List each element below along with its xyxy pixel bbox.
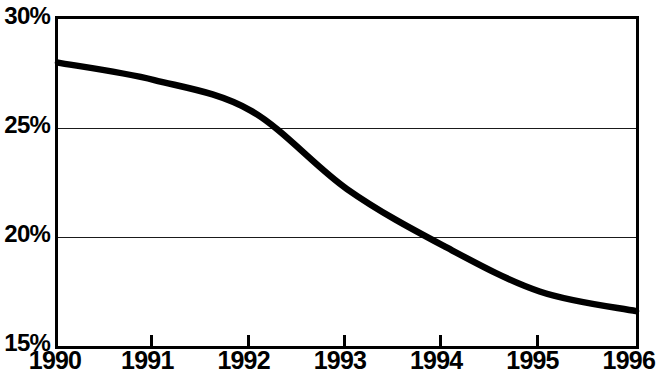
x-axis-label-1995: 1995 <box>478 348 588 373</box>
x-axis-label-1993: 1993 <box>285 348 395 373</box>
x-axis-label-1991: 1991 <box>92 348 202 373</box>
x-axis-label-1992: 1992 <box>189 348 299 373</box>
y-axis-tick-text: 30% <box>4 4 50 28</box>
y-axis-tick-label-30: 30% <box>0 4 50 28</box>
plot-inner <box>58 19 636 346</box>
x-axis-label-1996: 1996 <box>574 348 659 373</box>
series-path <box>58 63 636 312</box>
data-series-line <box>58 19 636 346</box>
x-axis-label-1994: 1994 <box>381 348 491 373</box>
line-chart: 30% 25% 20% 15% 1990 1991 1992 1993 <box>0 0 659 376</box>
plot-area <box>55 16 639 349</box>
y-axis-tick-text: 20% <box>4 222 50 246</box>
y-axis-tick-text: 25% <box>4 113 50 137</box>
y-axis-tick-label-25: 25% <box>0 113 50 137</box>
y-axis-tick-label-20: 20% <box>0 222 50 246</box>
